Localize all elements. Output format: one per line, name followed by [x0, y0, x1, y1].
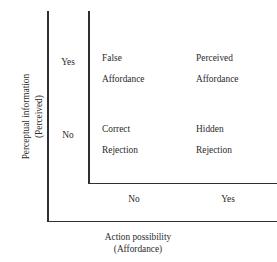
quadrant-cell-perceived-affordance: Perceived Affordance: [196, 48, 239, 90]
quadrant-cell-correct-rejection-line2: Rejection: [102, 140, 138, 161]
x-axis-title-line2: (Affordance): [48, 243, 228, 255]
quadrant-cell-correct-rejection-line1: Correct: [102, 119, 138, 140]
x-axis-tick-yes: Yes: [186, 194, 270, 204]
quadrant-cell-hidden-rejection: Hidden Rejection: [196, 119, 232, 161]
x-axis-tick-no: No: [92, 194, 176, 204]
quadrant-cell-false-affordance: False Affordance: [102, 48, 145, 90]
affordance-matrix-figure: Perceptual information (Perceived) Yes N…: [0, 0, 277, 262]
y-axis-title: Perceptual information (Perceived): [20, 22, 45, 212]
y-axis-tick-yes: Yes: [50, 57, 86, 67]
x-axis-title: Action possibility (Affordance): [48, 231, 228, 255]
y-axis-tick-no: No: [50, 130, 86, 140]
quadrant-cell-perceived-affordance-line1: Perceived: [196, 48, 239, 69]
quadrant-box-bottom-border: [88, 183, 277, 185]
quadrant-box-left-border: [88, 11, 90, 184]
quadrant-cell-hidden-rejection-line2: Rejection: [196, 140, 232, 161]
x-axis-line: [47, 221, 277, 223]
cropped-figure-title: [0, 0, 277, 3]
quadrant-cell-false-affordance-line2: Affordance: [102, 69, 145, 90]
y-axis-title-line2: (Perceived): [33, 22, 46, 212]
quadrant-cell-hidden-rejection-line1: Hidden: [196, 119, 232, 140]
quadrant-cell-perceived-affordance-line2: Affordance: [196, 69, 239, 90]
x-axis-title-line1: Action possibility: [105, 232, 171, 242]
quadrant-cell-false-affordance-line1: False: [102, 48, 145, 69]
y-axis-line: [47, 11, 49, 222]
quadrant-cell-correct-rejection: Correct Rejection: [102, 119, 138, 161]
y-axis-title-line1: Perceptual information: [21, 74, 31, 159]
